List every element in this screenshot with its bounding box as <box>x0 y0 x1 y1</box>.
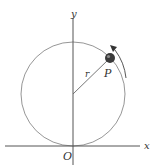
y-axis-label: y <box>70 8 77 19</box>
point-p <box>105 53 115 63</box>
point-p-highlight <box>107 55 110 58</box>
x-axis-label: x <box>144 140 150 151</box>
origin-label: O <box>63 150 72 163</box>
radius-label: r <box>85 69 90 79</box>
point-label: P <box>103 67 112 80</box>
circular-motion-diagram: y x O r P <box>0 0 154 165</box>
